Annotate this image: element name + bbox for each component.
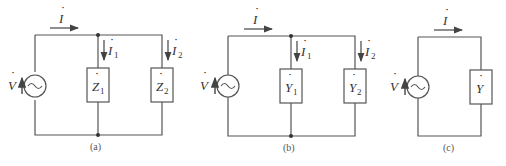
node-dot [289, 34, 293, 38]
caption: (a) [90, 141, 101, 153]
svg-text:˙: ˙ [302, 36, 306, 51]
circuit-b: V ˙ I ˙ Y 1 ˙ I 1 ˙ Y 2 ˙ I 2 ˙ (b) [200, 4, 376, 154]
node-dot [96, 133, 100, 137]
svg-text:1: 1 [307, 51, 312, 61]
svg-text:˙: ˙ [60, 3, 64, 18]
svg-text:1: 1 [100, 86, 105, 96]
svg-text:˙: ˙ [254, 4, 258, 19]
svg-text:2: 2 [164, 86, 169, 96]
circuit-a: V ˙ I ˙ Z 1 ˙ I 1 ˙ Z 2 ˙ I 2 ˙ (a) [8, 3, 183, 153]
svg-text:1: 1 [114, 50, 119, 60]
svg-text:2: 2 [357, 87, 362, 97]
circuit-diagrams: V ˙ I ˙ Z 1 ˙ I 1 ˙ Z 2 ˙ I 2 ˙ (a) V ˙ [0, 0, 506, 166]
svg-text:˙: ˙ [10, 68, 14, 83]
svg-text:2: 2 [371, 51, 376, 61]
svg-text:1: 1 [293, 87, 298, 97]
svg-text:˙: ˙ [351, 70, 355, 85]
caption: (b) [283, 142, 295, 154]
svg-text:˙: ˙ [478, 71, 482, 86]
svg-text:˙: ˙ [202, 68, 206, 83]
circuit-c: V ˙ I ˙ Y ˙ (c) [390, 5, 492, 154]
svg-text:˙: ˙ [109, 35, 113, 50]
caption: (c) [443, 142, 454, 154]
node-dot [96, 33, 100, 37]
node-dot [289, 134, 293, 138]
svg-text:2: 2 [178, 50, 183, 60]
svg-text:˙: ˙ [392, 69, 396, 84]
svg-text:˙: ˙ [173, 35, 177, 50]
svg-text:˙: ˙ [444, 5, 448, 20]
svg-text:˙: ˙ [158, 69, 162, 84]
svg-text:˙: ˙ [94, 69, 98, 84]
svg-text:˙: ˙ [366, 36, 370, 51]
svg-text:˙: ˙ [287, 70, 291, 85]
